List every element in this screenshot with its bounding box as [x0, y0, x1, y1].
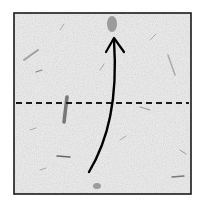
- paper-speck: [107, 16, 117, 32]
- origami-diagram: [0, 0, 202, 207]
- paper-speck: [93, 183, 101, 189]
